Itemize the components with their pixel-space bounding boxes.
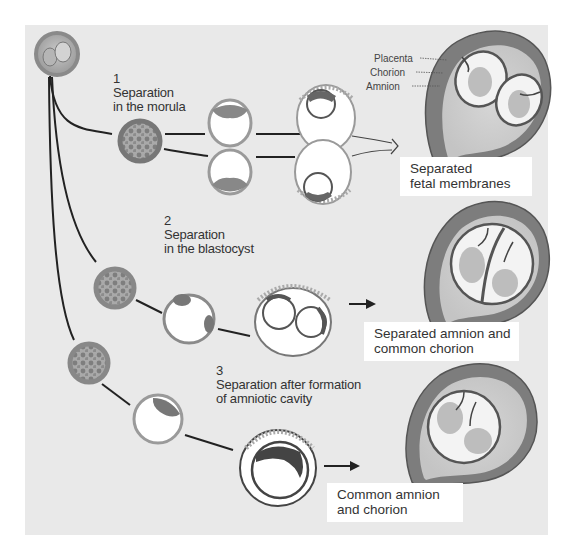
uterus-icon-stage-1 <box>425 31 550 168</box>
twinning-diagram: 1 Separation in the morula Placenta Chor… <box>0 0 572 551</box>
amnion-label: Amnion <box>366 81 400 93</box>
stage-2-result-line1: Separated amnion and <box>374 326 511 341</box>
stage-1-number: 1 <box>113 72 120 86</box>
stage-1-title-line2: in the morula <box>113 100 186 114</box>
stage-2-title-line2: in the blastocyst <box>164 242 254 256</box>
arrow-icon-stage-3 <box>324 461 360 471</box>
morula-icon-stage-1 <box>120 121 160 161</box>
stage-1-result-box: Separated fetal membranes <box>400 157 532 196</box>
zygote-icon <box>36 33 78 75</box>
morula-icon-stage-3 <box>70 344 108 382</box>
stage-2-title-line1: Separation <box>164 228 225 242</box>
stage-3-result-box: Common amnion and chorion <box>327 483 463 522</box>
blastocyst-icon-stage-2 <box>164 294 214 343</box>
arrow-icon-stage-1 <box>352 136 398 156</box>
stage-3-title-line2: of amniotic cavity <box>216 392 312 406</box>
stage-2-result-box: Separated amnion and common chorion <box>364 322 519 361</box>
blastocyst-icon-stage-3 <box>134 395 182 443</box>
diagram-illustration <box>0 0 572 551</box>
stage-3-result-line1: Common amnion <box>337 487 455 502</box>
stage-2-number: 2 <box>164 214 171 228</box>
stage-1-result-line1: Separated <box>410 161 524 176</box>
uterus-icon-stage-3 <box>406 364 537 484</box>
placenta-label: Placenta <box>374 53 413 65</box>
blastocyst-icon-stage-1-top <box>209 100 251 146</box>
stage-3-result-line2: and chorion <box>337 502 455 517</box>
chorion-label: Chorion <box>370 67 405 79</box>
stage-1-result-line2: fetal membranes <box>410 176 524 191</box>
arrow-icon-stage-2 <box>349 299 376 309</box>
morula-icon-stage-2 <box>96 269 134 307</box>
stage-3-title-line1: Separation after formation <box>216 378 361 392</box>
blastocyst-icon-stage-1-bottom <box>209 150 251 194</box>
uterus-icon-stage-2 <box>424 202 549 334</box>
embryo-icon-stage-1-bottom <box>295 140 351 204</box>
embryo-icon-stage-3 <box>240 430 316 506</box>
stage-3-number: 3 <box>216 364 223 378</box>
stage-1-title-line1: Separation <box>113 86 174 100</box>
stage-2-result-line2: common chorion <box>374 341 511 356</box>
embryo-icon-stage-2 <box>255 286 331 356</box>
